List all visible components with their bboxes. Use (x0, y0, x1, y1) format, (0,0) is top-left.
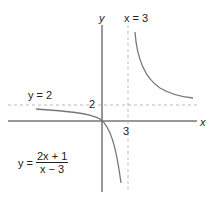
equation-lhs: y = (18, 157, 33, 169)
numerator: 2x + 1 (36, 150, 68, 163)
curve-right-branch (135, 32, 193, 98)
y-axis-label: y (99, 13, 105, 24)
denominator: x − 3 (40, 163, 64, 175)
equation: y = 2x + 1 x − 3 (18, 150, 68, 175)
horizontal-asymptote-label: y = 2 (28, 90, 52, 101)
x-tick-label: 3 (123, 126, 129, 137)
x-axis-label: x (200, 117, 206, 128)
y-tick-label: 2 (89, 99, 95, 110)
vertical-asymptote-label: x = 3 (124, 13, 148, 24)
fraction: 2x + 1 x − 3 (36, 150, 68, 175)
